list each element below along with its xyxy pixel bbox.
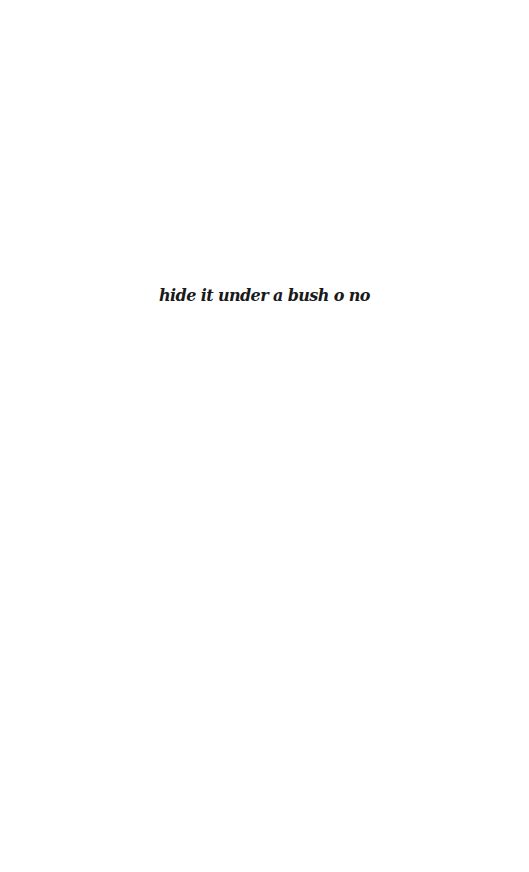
document-page: hide it under a bush o no <box>0 0 529 872</box>
poem-line: hide it under a bush o no <box>0 284 529 308</box>
